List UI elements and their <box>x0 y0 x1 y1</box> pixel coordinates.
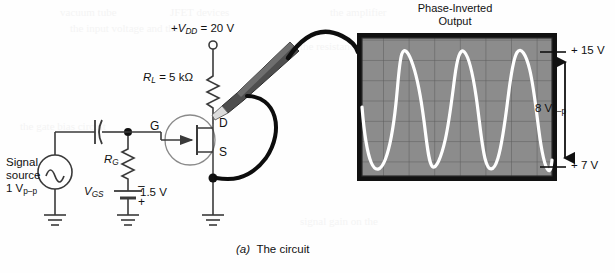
supply-voltage-label: +VDD = 20 V <box>171 22 234 36</box>
scope-top-level-label: + 15 V <box>571 44 605 57</box>
figure-caption: (a) The circuit <box>236 243 310 256</box>
terminal-drain-label: D <box>219 117 228 131</box>
oscilloscope-display[interactable] <box>357 33 557 181</box>
supply-value: = 20 V <box>201 22 235 34</box>
battery-plus-label: + <box>138 196 145 210</box>
jfet-transistor <box>161 115 215 180</box>
ac-source-circle <box>38 155 72 189</box>
signal-source-value: 1 V <box>6 182 23 194</box>
caption-marker: (a) <box>236 243 250 255</box>
signal-source-line3: 1 Vp–p <box>6 182 41 196</box>
gate-resistor-subscript: G <box>112 158 118 167</box>
figure-page: vacuum tube JFET devices the amplifier t… <box>0 0 615 273</box>
signal-source-label: Signal source 1 Vp–p <box>6 156 41 197</box>
supply-subscript: DD <box>185 27 197 36</box>
probe-signal-cable <box>288 32 358 58</box>
terminal-gate-label: G <box>150 120 159 134</box>
scope-bottom-level-label: + 7 V <box>571 159 598 172</box>
input-branch <box>38 120 128 225</box>
vgs-symbol-text: V <box>84 185 92 197</box>
signal-source-sub: p–p <box>23 187 37 196</box>
supply-plus: + <box>171 22 178 34</box>
scope-span-value: 8 V <box>535 102 552 114</box>
scope-title-line1: Phase-Inverted <box>395 2 515 15</box>
vgs-subscript: GS <box>92 190 104 199</box>
load-resistor-symbol <box>207 72 219 115</box>
load-resistor-value: = 5 kΩ <box>159 71 193 83</box>
gate-bias-branch <box>114 128 161 225</box>
signal-source-line1: Signal <box>6 156 41 169</box>
ground-symbol-signal <box>44 215 66 225</box>
terminal-source-label: S <box>219 146 227 160</box>
supply-terminal-circle <box>209 41 217 49</box>
ground-symbol-bias <box>117 215 139 225</box>
load-resistor-label: RL = 5 kΩ <box>143 71 193 85</box>
load-resistor-subscript: L <box>151 76 156 85</box>
gate-resistor-label: RG <box>104 153 119 167</box>
source-ground-branch <box>202 174 224 226</box>
oscilloscope-probe[interactable] <box>212 32 358 179</box>
scope-title: Phase-Inverted Output <box>395 2 515 27</box>
signal-source-line2: source <box>6 169 41 182</box>
scope-span-label: 8 Vp–p <box>535 102 566 116</box>
scope-span-sub: p–p <box>552 107 566 116</box>
gate-source-voltage-label: VGS <box>84 185 104 199</box>
caption-text: The circuit <box>256 243 309 255</box>
gate-resistor-symbol <box>122 146 134 186</box>
ground-symbol-source <box>202 215 224 225</box>
capacitor-plate-curved <box>99 120 102 144</box>
scope-title-line2: Output <box>395 15 515 28</box>
probe-body-highlight <box>237 42 294 97</box>
circuit-schematic <box>0 0 615 273</box>
